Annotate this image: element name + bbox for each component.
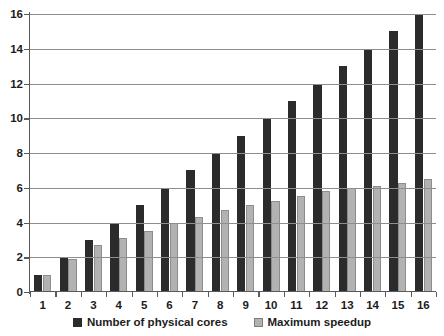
bar-speedup — [322, 191, 330, 292]
bar-speedup — [94, 245, 102, 292]
gridline — [30, 153, 436, 154]
x-axis-tick-mark — [157, 292, 158, 297]
y-axis-tick-mark — [24, 49, 30, 50]
y-axis-tick-mark — [24, 257, 30, 258]
legend-swatch-icon-cores — [73, 318, 82, 327]
y-axis-tick-label: 2 — [17, 251, 23, 263]
x-axis-tick-mark — [81, 292, 82, 297]
bar-cores — [389, 31, 397, 292]
bar-cores — [288, 101, 296, 292]
bar-cores — [85, 240, 93, 292]
bar-chart: 0246810121416 12345678910111213141516 Nu… — [0, 0, 444, 336]
x-axis-tick-label: 14 — [366, 299, 379, 311]
x-axis-tick-mark — [55, 292, 56, 297]
legend-swatch-icon-speedup — [254, 318, 263, 327]
x-axis-tick-mark — [233, 292, 234, 297]
x-axis-tick-mark — [411, 292, 412, 297]
x-axis-tick-mark — [132, 292, 133, 297]
bar-speedup — [424, 179, 432, 292]
bar-speedup — [347, 188, 355, 292]
x-axis-tick-label: 1 — [39, 299, 45, 311]
x-axis-tick-mark — [335, 292, 336, 297]
bar-cores — [60, 257, 68, 292]
x-axis-tick-mark — [258, 292, 259, 297]
gridline — [30, 118, 436, 119]
bar-speedup — [195, 217, 203, 292]
x-axis-tick-label: 8 — [217, 299, 223, 311]
x-axis-tick-label: 15 — [392, 299, 405, 311]
x-axis-tick-mark — [360, 292, 361, 297]
bar-speedup — [373, 186, 381, 292]
y-axis-tick-label: 14 — [10, 43, 23, 55]
x-axis-tick-mark — [436, 292, 437, 297]
bar-speedup — [68, 259, 76, 292]
legend-label-cores: Number of physical cores — [87, 316, 228, 328]
bar-cores — [364, 49, 372, 292]
x-axis-tick-label: 7 — [192, 299, 198, 311]
x-axis-tick-mark — [385, 292, 386, 297]
y-axis-tick-mark — [24, 223, 30, 224]
gridline — [30, 49, 436, 50]
y-axis-tick-mark — [24, 84, 30, 85]
x-axis-tick-label: 11 — [290, 299, 302, 311]
bar-cores — [237, 136, 245, 292]
x-axis-tick-mark — [106, 292, 107, 297]
gridline — [30, 223, 436, 224]
bar-speedup — [297, 196, 305, 292]
bar-speedup — [246, 205, 254, 292]
legend-item-speedup: Maximum speedup — [254, 316, 372, 328]
gridline — [30, 188, 436, 189]
bar-cores — [136, 205, 144, 292]
x-axis-tick-label: 6 — [166, 299, 172, 311]
x-axis-tick-mark — [30, 292, 31, 297]
gridline — [30, 257, 436, 258]
y-axis-tick-mark — [24, 14, 30, 15]
gridline — [30, 14, 436, 15]
x-axis-tick-label: 4 — [116, 299, 122, 311]
x-axis-tick-label: 2 — [65, 299, 71, 311]
legend-item-cores: Number of physical cores — [73, 316, 228, 328]
x-axis-tick-label: 3 — [90, 299, 96, 311]
y-axis-tick-label: 0 — [17, 286, 23, 298]
chart-legend: Number of physical cores Maximum speedup — [0, 316, 444, 328]
bar-speedup — [43, 275, 51, 292]
x-axis-tick-label: 10 — [265, 299, 278, 311]
bar-cores — [34, 275, 42, 292]
x-axis-tick-mark — [284, 292, 285, 297]
y-axis-tick-label: 4 — [17, 217, 23, 229]
bar-speedup — [119, 238, 127, 292]
bar-cores — [263, 118, 271, 292]
x-axis-tick-label: 5 — [141, 299, 147, 311]
y-axis-tick-label: 6 — [17, 182, 23, 194]
x-axis-tick-label: 13 — [341, 299, 354, 311]
plot-area — [30, 14, 436, 292]
y-axis-tick-mark — [24, 118, 30, 119]
x-axis-tick-label: 9 — [242, 299, 248, 311]
x-axis-tick-mark — [182, 292, 183, 297]
y-axis-tick-mark — [24, 153, 30, 154]
y-axis-tick-label: 12 — [10, 78, 23, 90]
y-axis-tick-label: 10 — [10, 112, 23, 124]
y-axis-tick-label: 16 — [10, 8, 23, 20]
x-axis-tick-label: 12 — [315, 299, 328, 311]
x-axis-tick-label: 16 — [417, 299, 430, 311]
x-axis-tick-mark — [309, 292, 310, 297]
x-axis-tick-mark — [208, 292, 209, 297]
gridline — [30, 84, 436, 85]
bar-cores — [161, 188, 169, 292]
bar-speedup — [398, 183, 406, 292]
y-axis-tick-label: 8 — [17, 147, 23, 159]
legend-label-speedup: Maximum speedup — [268, 316, 372, 328]
bar-speedup — [271, 201, 279, 292]
y-axis-tick-mark — [24, 188, 30, 189]
bar-speedup — [144, 231, 152, 292]
